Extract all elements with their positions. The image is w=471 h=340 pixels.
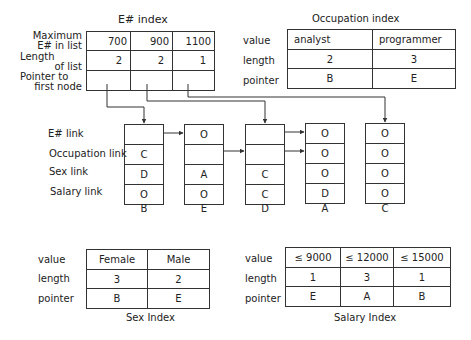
sex-pointer: B [87,289,148,309]
salary-row-label-length: length [245,273,277,284]
sex-row-label-value: value [38,254,65,265]
salary-pointer: A [341,287,394,307]
arrow-eindex-1100-to-C [188,84,385,122]
salary-index-table: ≤ 9000 ≤ 12000 ≤ 15000 1 3 1 E A B [285,247,451,307]
salary-value-15000: ≤ 15000 [394,248,451,268]
sex-value-male: Male [148,250,210,270]
salary-row-label-value: value [245,253,272,264]
sex-row-label-pointer: pointer [38,293,74,304]
arrow-eindex-900-to-D [147,84,265,123]
sex-pointer: E [148,289,210,309]
salary-value-9000: ≤ 9000 [286,248,341,268]
sex-length: 3 [87,270,148,289]
sex-row-label-length: length [38,273,70,284]
salary-index-title: Salary Index [334,312,396,323]
salary-value-12000: ≤ 12000 [341,248,394,268]
sex-index-table: Female Male 3 2 B E [86,249,210,309]
salary-length: 1 [394,268,451,287]
salary-pointer: E [286,287,341,307]
sex-length: 2 [148,270,210,289]
salary-row-label-pointer: pointer [245,293,281,304]
sex-index-title: Sex Index [126,312,175,323]
sex-value-female: Female [87,250,148,270]
arrow-eindex-700-to-B [107,84,144,123]
salary-length: 3 [341,268,394,287]
salary-length: 1 [286,268,341,287]
salary-pointer: B [394,287,451,307]
